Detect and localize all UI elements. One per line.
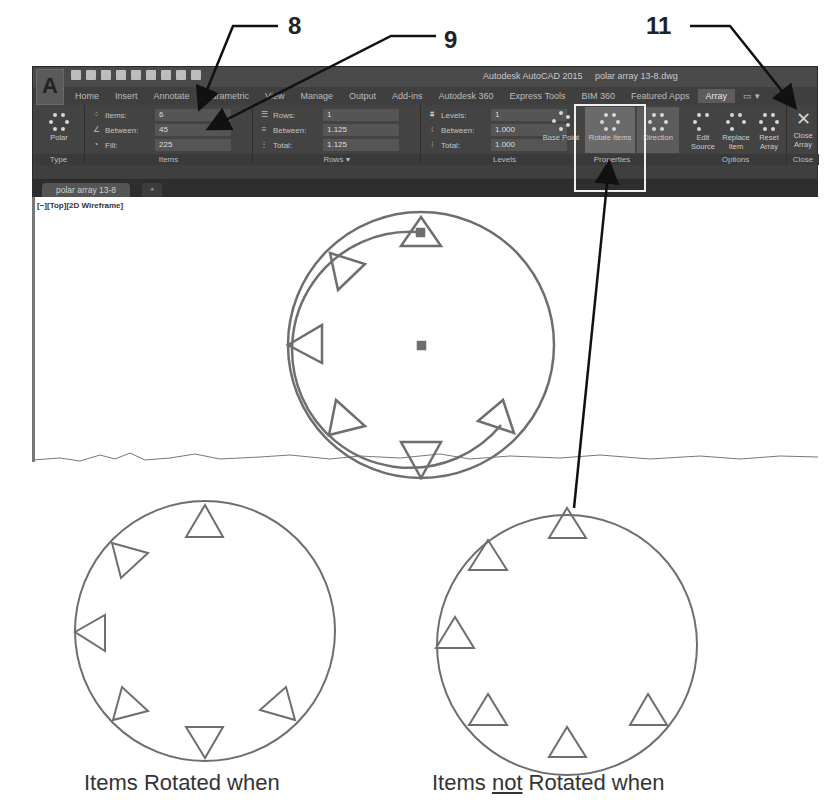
grip-top[interactable] bbox=[417, 229, 424, 236]
torn-edge bbox=[32, 453, 818, 461]
rotated-circle bbox=[75, 501, 335, 761]
not-rotated-caption-prefix: Items bbox=[432, 770, 492, 795]
not-rotated-circle bbox=[437, 515, 697, 775]
rotated-caption: Items Rotated when bbox=[84, 770, 280, 796]
not-rotated-caption: Items not Rotated when bbox=[432, 770, 664, 796]
not-rotated-caption-suffix: Rotated when bbox=[523, 770, 665, 795]
rotated-items-example bbox=[75, 501, 335, 761]
callout-9-leader bbox=[210, 36, 436, 128]
viewport-polar-array bbox=[288, 212, 554, 478]
callout-8-leader bbox=[200, 26, 278, 107]
array-path-arc bbox=[292, 232, 501, 468]
not-rotated-caption-emphasis: not bbox=[492, 770, 523, 795]
grip-center[interactable] bbox=[418, 342, 425, 349]
properties-leader bbox=[574, 164, 609, 508]
not-rotated-items-example bbox=[436, 508, 697, 775]
callout-11-leader bbox=[690, 26, 794, 106]
drawing-overlay bbox=[0, 0, 840, 806]
